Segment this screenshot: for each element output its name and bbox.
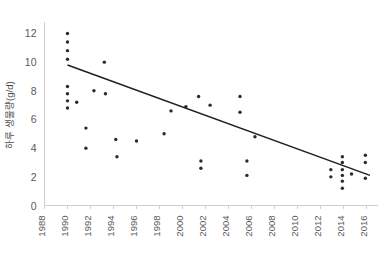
data-point (103, 60, 106, 63)
y-tick-label: 6 (31, 113, 37, 125)
x-tick-label: 2008 (266, 216, 277, 237)
data-points-layer (66, 32, 367, 190)
data-point (341, 174, 344, 177)
data-point (329, 168, 332, 171)
x-tick-label: 1988 (36, 216, 47, 237)
data-point (238, 95, 241, 98)
data-point (341, 179, 344, 182)
data-point (197, 95, 200, 98)
data-point (245, 174, 248, 177)
x-tick-label: 1998 (151, 216, 162, 237)
scatter-chart: 024681012 198819901992199419961998200020… (0, 0, 385, 255)
x-tick-label: 2010 (289, 216, 300, 237)
data-point (135, 139, 138, 142)
data-point (208, 103, 211, 106)
y-tick-label: 10 (25, 56, 37, 68)
y-axis-title: 하루 생물량(g/d) (4, 81, 15, 148)
data-point (364, 154, 367, 157)
x-tick-label: 1992 (82, 216, 93, 237)
x-tick-label: 2012 (312, 216, 323, 237)
data-point (341, 161, 344, 164)
y-tick-label: 12 (25, 27, 37, 39)
x-tick-label: 1996 (128, 216, 139, 237)
data-point (66, 58, 69, 61)
x-tick-label: 1990 (59, 216, 70, 237)
data-point (75, 101, 78, 104)
data-point (66, 85, 69, 88)
data-point (66, 49, 69, 52)
y-tick-label: 0 (31, 200, 37, 212)
y-tick-label: 4 (31, 142, 37, 154)
x-tick-label: 2016 (358, 216, 369, 237)
data-point (66, 92, 69, 95)
data-point (84, 146, 87, 149)
chart-canvas: 024681012 198819901992199419961998200020… (0, 0, 385, 255)
x-tick-label: 2002 (197, 216, 208, 237)
data-point (92, 89, 95, 92)
data-point (115, 155, 118, 158)
x-tick-label: 2006 (243, 216, 254, 237)
data-point (253, 135, 256, 138)
x-axis-tick-labels: 1988199019921994199619982000200220042006… (36, 206, 369, 237)
data-point (245, 159, 248, 162)
data-point (341, 168, 344, 171)
trend-line (68, 65, 370, 175)
data-point (66, 106, 69, 109)
data-point (364, 161, 367, 164)
data-point (364, 177, 367, 180)
data-point (162, 132, 165, 135)
data-point (199, 167, 202, 170)
x-tick-label: 2014 (335, 216, 346, 237)
y-tick-label: 8 (31, 85, 37, 97)
data-point (238, 111, 241, 114)
data-point (341, 155, 344, 158)
x-tick-label: 1994 (105, 216, 116, 237)
data-point (114, 138, 117, 141)
data-point (84, 126, 87, 129)
data-point (104, 92, 107, 95)
data-point (350, 172, 353, 175)
x-tick-label: 2004 (220, 216, 231, 237)
x-tick-label: 2000 (174, 216, 185, 237)
data-point (66, 40, 69, 43)
data-point (66, 32, 69, 35)
data-point (169, 109, 172, 112)
data-point (199, 159, 202, 162)
data-point (66, 99, 69, 102)
data-point (341, 187, 344, 190)
data-point (329, 175, 332, 178)
y-tick-label: 2 (31, 171, 37, 183)
y-axis-tick-labels: 024681012 (25, 27, 37, 211)
